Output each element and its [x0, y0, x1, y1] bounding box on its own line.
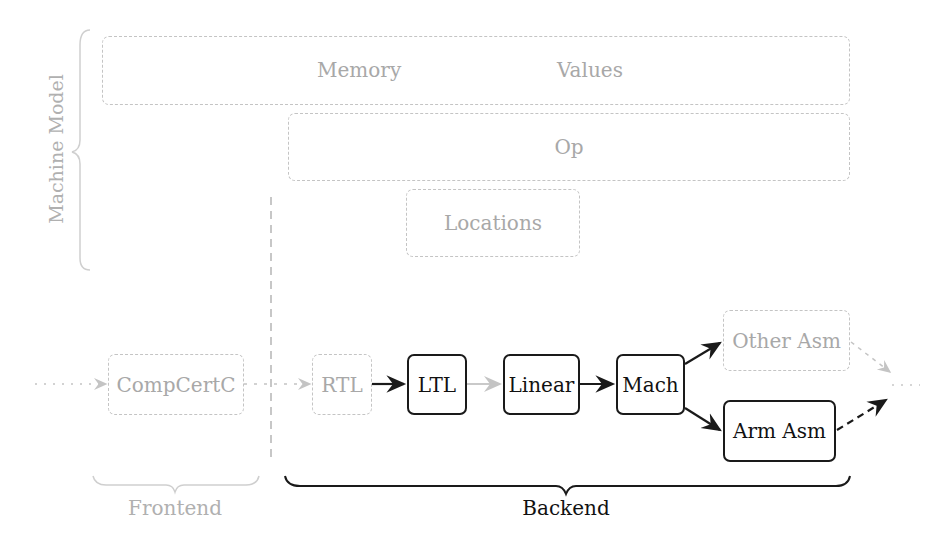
locations-box: Locations — [406, 189, 580, 257]
compcertc-label: CompCertC — [116, 373, 235, 397]
machine-model-brace — [72, 30, 90, 270]
arm-asm-node: Arm Asm — [723, 400, 836, 462]
other-asm-node: Other Asm — [723, 310, 850, 371]
op-box: Op — [288, 113, 850, 181]
mach-label: Mach — [622, 373, 678, 397]
arm-asm-label: Arm Asm — [733, 419, 826, 443]
backend-label: Backend — [516, 496, 616, 520]
linear-label: Linear — [509, 373, 575, 397]
memory-label: Memory — [317, 58, 401, 82]
locations-label: Locations — [444, 211, 542, 235]
memory-values-box: Memory Values — [102, 36, 850, 105]
rtl-label: RTL — [321, 373, 362, 397]
ltl-node: LTL — [407, 354, 467, 415]
backend-brace — [285, 476, 850, 494]
op-label: Op — [554, 135, 583, 159]
values-label: Values — [557, 58, 623, 82]
compcertc-node: CompCertC — [108, 354, 244, 415]
rtl-node: RTL — [312, 354, 372, 415]
other-asm-label: Other Asm — [732, 329, 841, 353]
ltl-label: LTL — [418, 373, 456, 397]
frontend-brace — [93, 476, 259, 492]
frontend-label: Frontend — [125, 496, 225, 520]
machine-model-label: Machine Model — [45, 59, 67, 239]
linear-node: Linear — [503, 354, 580, 415]
mach-node: Mach — [616, 354, 685, 415]
